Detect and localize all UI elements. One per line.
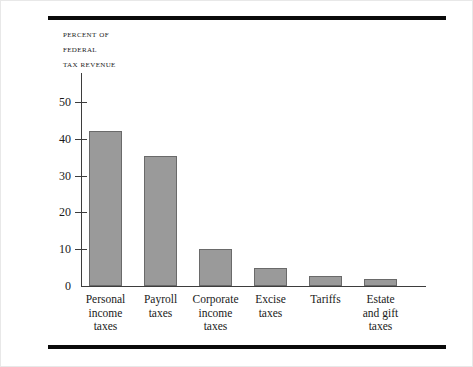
y-tick-label-10: 10 [43,243,71,255]
category-label-4-line-2: taxes [234,307,308,321]
bar-3 [199,249,232,286]
y-tick-label-50: 50 [43,96,71,108]
category-label-1-line-3: taxes [69,320,143,334]
category-label-6-line-2: and gift [344,307,418,321]
y-tick-20 [75,212,87,213]
bar-5 [309,276,342,286]
y-tick-10 [75,249,87,250]
category-label-6-line-3: taxes [344,320,418,334]
y-axis-line [81,73,82,287]
y-tick-40 [75,139,87,140]
bar-1 [89,131,122,286]
y-tick-30 [75,176,87,177]
category-label-3-line-3: taxes [179,320,253,334]
y-tick-label-40: 40 [43,133,71,145]
y-tick-label-20: 20 [43,206,71,218]
chart-page: Percent of Federal Tax Revenue 010203040… [0,0,473,367]
y-tick-label-0: 0 [43,280,71,292]
x-axis-line [81,286,426,287]
bar-4 [254,268,287,286]
y-tick-50 [75,102,87,103]
category-label-6-line-1: Estate [344,293,418,307]
category-label-6: Estateand gifttaxes [344,293,418,334]
bar-6 [364,279,397,286]
y-tick-label-30: 30 [43,170,71,182]
bar-2 [144,156,177,286]
plot-area: 01020304050 PersonalincometaxesPayrollta… [1,1,473,367]
